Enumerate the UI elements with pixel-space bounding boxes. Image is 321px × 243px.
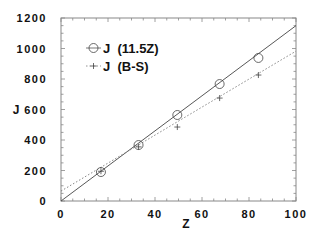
y-tick-label: 1000: [17, 43, 47, 55]
legend-label-11.5z: J (11.5Z): [103, 41, 159, 56]
fit-line-b-s: [61, 51, 296, 191]
y-tick-label: 800: [24, 73, 47, 85]
axis-tick-labels: 020406080100020040060080010001200: [17, 12, 308, 220]
x-tick-label: 0: [57, 208, 65, 220]
x-tick-label: 60: [194, 208, 209, 220]
y-tick-label: 200: [24, 165, 47, 177]
legend: J (11.5Z) J (B-S): [86, 41, 159, 74]
plus-marker-icon: [255, 72, 261, 78]
x-tick-label: 80: [241, 208, 256, 220]
circle-marker-icon: [173, 110, 182, 119]
x-tick-label: 100: [285, 208, 308, 220]
circle-marker-icon: [254, 53, 263, 62]
plus-marker-icon: [174, 124, 180, 130]
plot-border: [61, 18, 296, 201]
y-tick-label: 0: [39, 195, 47, 207]
y-axis-title: J: [13, 103, 20, 117]
y-tick-label: 600: [24, 104, 47, 116]
chart-canvas: 020406080100020040060080010001200 Z J J …: [0, 0, 321, 243]
x-axis-title: Z: [182, 217, 189, 231]
x-tick-label: 40: [147, 208, 162, 220]
legend-label-b-s: J (B-S): [103, 59, 149, 74]
y-tick-label: 1200: [17, 12, 47, 24]
plot-frame: [61, 18, 296, 201]
plus-marker-icon: [217, 95, 223, 101]
legend-plus-marker-icon: [91, 63, 97, 69]
axis-ticks: [61, 18, 296, 201]
y-tick-label: 400: [24, 134, 47, 146]
x-tick-label: 20: [100, 208, 115, 220]
circle-marker-icon: [215, 80, 224, 89]
